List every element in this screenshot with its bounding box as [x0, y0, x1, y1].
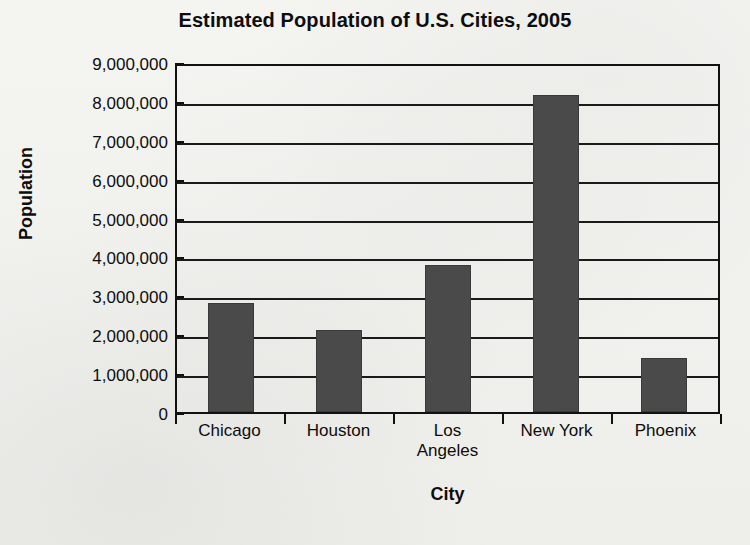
- y-axis-tick-label: 1,000,000: [92, 367, 168, 384]
- y-axis-tick-label: 2,000,000: [92, 328, 168, 345]
- bar-slot: [177, 66, 285, 412]
- x-axis-tick-label: New York: [502, 421, 611, 461]
- bar-slot: [502, 66, 610, 412]
- y-axis-tick-mark: [175, 374, 184, 376]
- y-axis-tick-labels: 9,000,0008,000,0007,000,0006,000,0005,00…: [0, 0, 168, 545]
- bar[interactable]: [641, 358, 687, 412]
- y-axis-tick-mark: [175, 257, 184, 259]
- bar[interactable]: [208, 303, 254, 412]
- y-axis-tick-label: 0: [159, 406, 168, 423]
- x-axis-tick-mark: [284, 414, 286, 424]
- x-axis-tick-mark: [720, 414, 722, 424]
- y-axis-tick-label: 6,000,000: [92, 172, 168, 189]
- y-axis-tick-mark: [175, 102, 184, 104]
- bar-slot: [393, 66, 501, 412]
- y-axis-tick-mark: [175, 335, 184, 337]
- bar-slot: [610, 66, 718, 412]
- y-axis-tick-mark: [175, 141, 184, 143]
- bar-series: [177, 66, 718, 412]
- x-axis-title: City: [175, 484, 720, 505]
- y-axis-tick-label: 9,000,000: [92, 56, 168, 73]
- y-axis-tick-label: 7,000,000: [92, 133, 168, 150]
- plot-area: [175, 64, 720, 414]
- bar[interactable]: [425, 265, 471, 412]
- y-axis-tick-label: 5,000,000: [92, 211, 168, 228]
- y-axis-tick-mark: [175, 180, 184, 182]
- y-axis-tick-mark: [175, 219, 184, 221]
- x-axis-tick-mark: [175, 414, 177, 424]
- x-axis-tick-label: Chicago: [175, 421, 284, 461]
- y-axis-tick-mark: [175, 296, 184, 298]
- x-axis-tick-labels: ChicagoHoustonLosAngelesNew YorkPhoenix: [175, 421, 720, 461]
- x-axis-tick-mark: [611, 414, 613, 424]
- y-axis-tick-label: 3,000,000: [92, 289, 168, 306]
- bar[interactable]: [316, 330, 362, 412]
- x-axis-tick-label: Phoenix: [611, 421, 720, 461]
- bar[interactable]: [533, 95, 579, 412]
- bar-slot: [285, 66, 393, 412]
- y-axis-tick-label: 8,000,000: [92, 94, 168, 111]
- x-axis-tick-mark: [393, 414, 395, 424]
- x-axis-tick-mark: [502, 414, 504, 424]
- y-axis-tick-mark: [175, 63, 184, 65]
- y-axis-tick-label: 4,000,000: [92, 250, 168, 267]
- bar-chart: Estimated Population of U.S. Cities, 200…: [0, 0, 750, 545]
- x-axis-tick-label: Houston: [284, 421, 393, 461]
- x-axis-tick-label: LosAngeles: [393, 421, 502, 461]
